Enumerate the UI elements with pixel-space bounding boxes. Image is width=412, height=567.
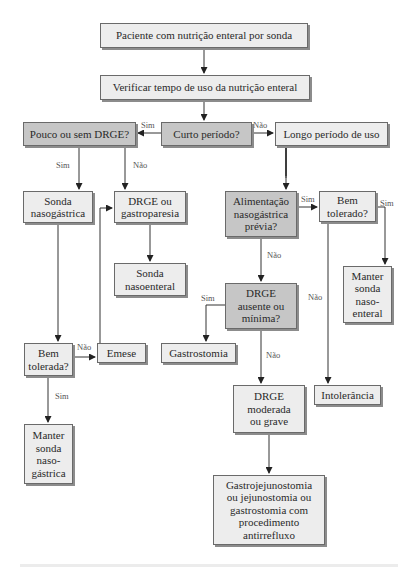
node-intolerance: Intolerância	[314, 385, 381, 405]
node-gastrojejunostomy-options: Gastrojejunostomia ou jejunostomia ou ga…	[213, 475, 325, 545]
edge-label-well-tolerated-no: Não	[308, 293, 322, 302]
edge-label-prior-feeding-no: Não	[267, 251, 281, 260]
edge-label-well-tolerated-yes: Sim	[380, 199, 394, 208]
node-nasogastric-tube: Sonda nasogástrica	[23, 191, 93, 223]
edge-label-well-tolerated-fem-yes: Sim	[55, 392, 69, 401]
node-gerd-moderate-severe: DRGE moderada ou grave	[233, 385, 305, 433]
edge-label-gerd-absent-no: Não	[266, 351, 280, 360]
node-prior-nasogastric-feeding-question: Alimentação nasogástrica prévia?	[225, 191, 297, 237]
node-long-period: Longo período de uso	[275, 122, 388, 146]
node-check-duration: Verificar tempo de uso da nutrição enter…	[100, 75, 310, 100]
node-start-patient: Paciente com nutrição enteral por sonda	[100, 23, 308, 48]
node-emesis: Emese	[97, 343, 146, 363]
edge-label-little-gerd-yes: Sim	[56, 161, 70, 170]
node-short-period-question: Curto período?	[161, 122, 252, 146]
node-gastrostomy: Gastrostomia	[161, 343, 236, 363]
edge-label-well-tolerated-fem-no: Não	[77, 343, 91, 352]
node-well-tolerated-question: Bem tolerado?	[319, 191, 376, 222]
edge-label-prior-feeding-yes: Sim	[301, 195, 315, 204]
node-gerd-absent-minimal-question: DRGE ausente ou mínima?	[225, 283, 297, 329]
node-keep-nasogastric-tube: Manter sonda naso- gástrica	[24, 424, 73, 484]
edge-label-short-no: Não	[253, 121, 267, 130]
edge-label-gerd-absent-yes: Sim	[201, 294, 215, 303]
node-gerd-or-gastroparesis: DRGE ou gastroparesia	[114, 191, 186, 223]
node-nasoenteral-tube: Sonda nasoenteral	[114, 263, 186, 296]
flowchart: Paciente com nutrição enteral por sonda …	[0, 0, 412, 567]
node-keep-nasoenteral-tube: Manter sonda naso- enteral	[343, 266, 392, 323]
node-well-tolerated-fem-question: Bem tolerada?	[24, 343, 73, 376]
edge-label-little-gerd-no: Não	[133, 161, 147, 170]
edge-label-short-yes: Sim	[141, 121, 155, 130]
node-little-or-no-gerd-question: Pouco ou sem DRGE?	[23, 122, 136, 146]
